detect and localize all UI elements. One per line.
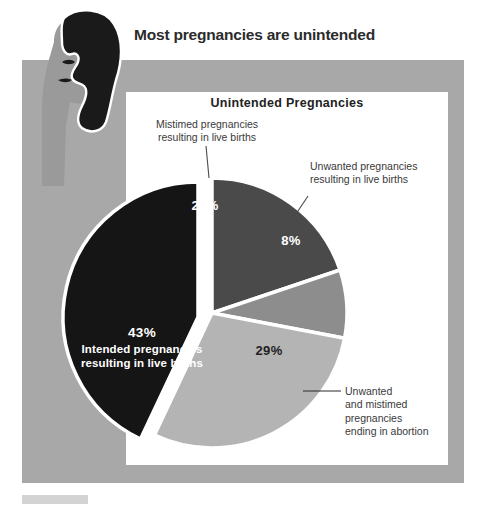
slice-label-intended: 43% Intended pregnancies resulting in li… [62,325,222,370]
callout-abortion-line2: and mistimed [345,398,450,411]
slice-label-intended-text: Intended pregnancies resulting in live b… [62,342,222,370]
callout-mistimed-line2: resulting in live births [132,131,282,144]
chart-title: Unintended Pregnancies [126,96,448,110]
callout-abortion-line1: Unwanted [345,385,450,398]
callout-unwanted-line2: resulting in live births [310,173,455,186]
callout-abortion-line3: pregnancies [345,412,450,425]
slice-label-abortion-pct: 29% [242,343,296,358]
callout-unwanted-line1: Unwanted pregnancies [310,160,455,173]
callout-abortion: Unwanted and mistimed pregnancies ending… [345,385,450,439]
callout-unwanted-live-births: Unwanted pregnancies resulting in live b… [310,160,455,187]
bottom-left-mark [22,495,88,504]
callout-mistimed-line1: Mistimed pregnancies [132,118,282,131]
woman-silhouette-illustration [20,6,140,186]
slice-label-mistimed-pct: 20% [170,198,240,213]
callout-mistimed-live-births: Mistimed pregnancies resulting in live b… [132,118,282,145]
slice-label-unwanted-pct: 8% [268,233,314,248]
slice-label-intended-pct: 43% [62,325,222,340]
infographic-root: Most pregnancies are unintended Unintend… [0,0,484,510]
callout-abortion-line4: ending in abortion [345,425,450,438]
page-title: Most pregnancies are unintended [134,26,464,43]
